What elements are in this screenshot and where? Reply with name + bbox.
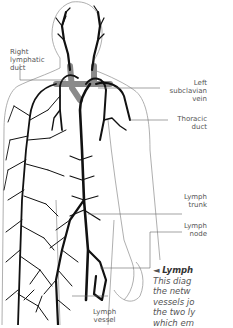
label-thoracic-duct: Thoracic duct — [177, 115, 207, 131]
caption-line: the netw — [153, 286, 233, 297]
caption-line: which em — [153, 318, 233, 328]
figure-caption: ◄ Lymph This diag the netw vessels jo th… — [153, 265, 233, 328]
label-left-subclavian-vein: Left subclavian vein — [170, 79, 207, 103]
label-lymph-vessel: Lymph vessel — [93, 308, 116, 324]
label-right-lymphatic-duct: Right lymphatic duct — [10, 48, 45, 72]
leader-lines — [20, 64, 182, 296]
caption-line: This diag — [153, 276, 233, 287]
caption-title: Lymph — [162, 265, 193, 275]
caption-line: vessels jo — [153, 297, 233, 308]
label-lymph-node: Lymph node — [184, 222, 207, 238]
caption-line: the two ly — [153, 307, 233, 318]
caption-marker-icon: ◄ — [153, 265, 160, 275]
label-lymph-trunk: Lymph trunk — [184, 193, 207, 209]
